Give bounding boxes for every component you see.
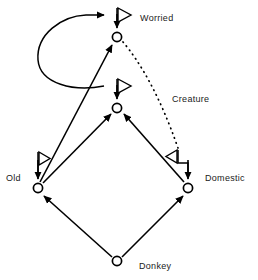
node-label-donkey: Donkey — [139, 261, 171, 271]
node-donkey[interactable] — [112, 256, 121, 265]
edge-donkey-old — [44, 196, 112, 257]
edge-old-worried — [40, 45, 112, 182]
node-label-old: Old — [6, 173, 21, 183]
node-domestic[interactable] — [183, 183, 192, 192]
node-creature[interactable] — [112, 103, 121, 112]
edge-worried-domestic — [123, 42, 178, 148]
node-label-creature: Creature — [172, 94, 209, 104]
diagram-canvas: Worried Creature Old Domestic Donkey — [0, 0, 258, 280]
node-label-domestic: Domestic — [205, 173, 245, 183]
edge-domestic-creature — [124, 114, 184, 182]
flag-marker-creature — [117, 79, 131, 99]
graph-svg — [0, 0, 258, 280]
node-worried[interactable] — [112, 32, 121, 41]
edge-old-creature — [43, 114, 111, 183]
flag-marker-worried — [117, 8, 131, 28]
node-old[interactable] — [33, 183, 42, 192]
edge-creature-worried — [38, 15, 104, 88]
node-label-worried: Worried — [140, 13, 173, 23]
edge-donkey-domestic — [122, 196, 183, 257]
